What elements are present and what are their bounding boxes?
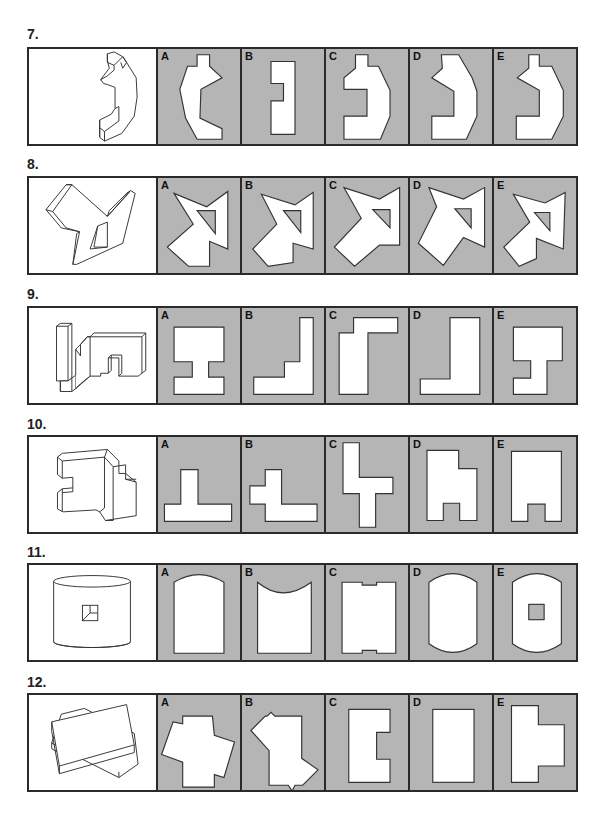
option-c[interactable]: C — [326, 178, 410, 273]
question-10-row: A B C D E — [27, 435, 578, 534]
option-letter: A — [161, 566, 169, 578]
angled-c-shape-tab-icon — [494, 49, 576, 144]
option-letter: C — [329, 696, 337, 708]
arch-icon — [494, 437, 576, 532]
option-letter: E — [497, 566, 504, 578]
option-letter: A — [161, 696, 169, 708]
star-polygon-icon — [326, 178, 408, 273]
option-d[interactable]: D — [410, 565, 494, 660]
barrel-shape-icon — [410, 565, 492, 660]
question-8-row: A B C D E — [27, 176, 578, 275]
reversed-l-tall-icon — [326, 308, 408, 403]
option-letter: B — [245, 566, 253, 578]
option-letter: A — [161, 50, 169, 62]
rounded-top-rectangle-icon — [158, 565, 240, 660]
question-12-stem — [29, 695, 158, 790]
option-letter: C — [329, 179, 337, 191]
option-d[interactable]: D — [410, 308, 494, 403]
star-polygon-icon — [158, 178, 240, 273]
i-beam-icon — [158, 308, 240, 403]
c-shape-reversed-icon — [326, 49, 408, 144]
option-a[interactable]: A — [158, 49, 242, 144]
option-d[interactable]: D — [410, 178, 494, 273]
overlapping-rotated-rectangles-icon — [158, 695, 240, 790]
option-d[interactable]: D — [410, 695, 494, 790]
rectangle-notch-right-icon — [326, 695, 408, 790]
option-b[interactable]: B — [242, 565, 326, 660]
isometric-cylinder-icon — [29, 565, 156, 660]
option-e[interactable]: E — [494, 178, 576, 273]
question-number: 11. — [27, 544, 46, 560]
plain-rectangle-icon — [410, 695, 492, 790]
isometric-c-shaped-block-icon — [29, 49, 156, 144]
option-letter: D — [413, 50, 421, 62]
option-b[interactable]: B — [242, 49, 326, 144]
l-shape-icon — [242, 308, 324, 403]
isometric-step-block-icon — [29, 308, 156, 403]
question-10-stem — [29, 437, 158, 532]
question-7-row: A B C D E — [27, 47, 578, 146]
option-letter: E — [497, 179, 504, 191]
question-number: 7. — [27, 26, 39, 42]
option-d[interactable]: D — [410, 437, 494, 532]
option-e[interactable]: E — [494, 695, 576, 790]
option-letter: C — [329, 566, 337, 578]
option-b[interactable]: B — [242, 178, 326, 273]
isometric-interlocking-block-icon — [29, 437, 156, 532]
question-number: 8. — [27, 156, 39, 172]
option-c[interactable]: C — [326, 695, 410, 790]
option-letter: A — [161, 438, 169, 450]
question-11-row: A B C D E — [27, 563, 578, 662]
star-polygon-icon — [494, 178, 576, 273]
concave-top-rectangle-icon — [242, 565, 324, 660]
option-b[interactable]: B — [242, 695, 326, 790]
rectangle-tab-right-icon — [494, 695, 576, 790]
question-number: 9. — [27, 286, 39, 302]
option-c[interactable]: C — [326, 308, 410, 403]
option-c[interactable]: C — [326, 565, 410, 660]
option-a[interactable]: A — [158, 695, 242, 790]
option-letter: B — [245, 438, 253, 450]
option-a[interactable]: A — [158, 308, 242, 403]
question-number: 10. — [27, 416, 46, 432]
option-letter: B — [245, 309, 253, 321]
question-7-stem — [29, 49, 158, 144]
option-d[interactable]: D — [410, 49, 494, 144]
option-letter: D — [413, 438, 421, 450]
vertical-cross-icon — [326, 437, 408, 532]
option-c[interactable]: C — [326, 437, 410, 532]
isometric-star-block-icon — [29, 178, 156, 273]
option-a[interactable]: A — [158, 565, 242, 660]
option-e[interactable]: E — [494, 308, 576, 403]
l-shape-tall-icon — [410, 308, 492, 403]
option-letter: D — [413, 179, 421, 191]
option-letter: C — [329, 438, 337, 450]
option-letter: B — [245, 179, 253, 191]
isometric-stacked-boxes-icon — [29, 695, 156, 790]
question-number: 12. — [27, 674, 46, 690]
angled-c-shape-icon — [410, 49, 492, 144]
question-11-stem — [29, 565, 158, 660]
option-letter: D — [413, 566, 421, 578]
inverted-t-icon — [158, 437, 240, 532]
rectangle-notch-icon — [242, 49, 324, 144]
option-b[interactable]: B — [242, 308, 326, 403]
question-9-stem — [29, 308, 158, 403]
option-e[interactable]: E — [494, 49, 576, 144]
irregular-c-shape-icon — [158, 49, 240, 144]
option-letter: E — [497, 696, 504, 708]
option-letter: C — [329, 309, 337, 321]
option-letter: B — [245, 50, 253, 62]
option-b[interactable]: B — [242, 437, 326, 532]
option-letter: E — [497, 309, 504, 321]
stepped-arch-icon — [410, 437, 492, 532]
cross-offset-icon — [242, 437, 324, 532]
option-c[interactable]: C — [326, 49, 410, 144]
option-letter: E — [497, 438, 504, 450]
star-polygon-icon — [242, 178, 324, 273]
option-a[interactable]: A — [158, 178, 242, 273]
option-e[interactable]: E — [494, 565, 576, 660]
option-a[interactable]: A — [158, 437, 242, 532]
option-e[interactable]: E — [494, 437, 576, 532]
question-8-stem — [29, 178, 158, 273]
